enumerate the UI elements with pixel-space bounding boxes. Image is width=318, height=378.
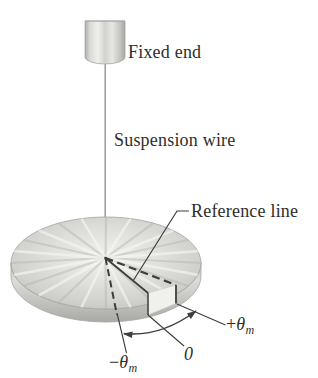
label-reference-line: Reference line bbox=[191, 201, 298, 221]
label-zero: 0 bbox=[184, 344, 193, 364]
theta-subscript: m bbox=[128, 361, 137, 375]
arc-arrowhead-left bbox=[123, 332, 133, 339]
plus-sign: + bbox=[226, 314, 236, 334]
extension-line-zero bbox=[148, 315, 184, 346]
label-minus-theta-m: −θm bbox=[109, 352, 137, 372]
arc-arrowhead-right bbox=[187, 311, 197, 319]
label-fixed-end: Fixed end bbox=[128, 42, 201, 62]
label-plus-theta-m: +θm bbox=[226, 314, 254, 334]
minus-sign: − bbox=[109, 352, 119, 372]
label-suspension-wire: Suspension wire bbox=[114, 130, 236, 150]
torsion-pendulum-diagram: Fixed end Suspension wire Reference line… bbox=[0, 0, 318, 378]
theta-subscript: m bbox=[245, 323, 254, 337]
wire-attachment-hub bbox=[104, 257, 107, 260]
fixed-end-cylinder bbox=[85, 21, 125, 64]
extension-line-plus-theta bbox=[177, 304, 226, 325]
